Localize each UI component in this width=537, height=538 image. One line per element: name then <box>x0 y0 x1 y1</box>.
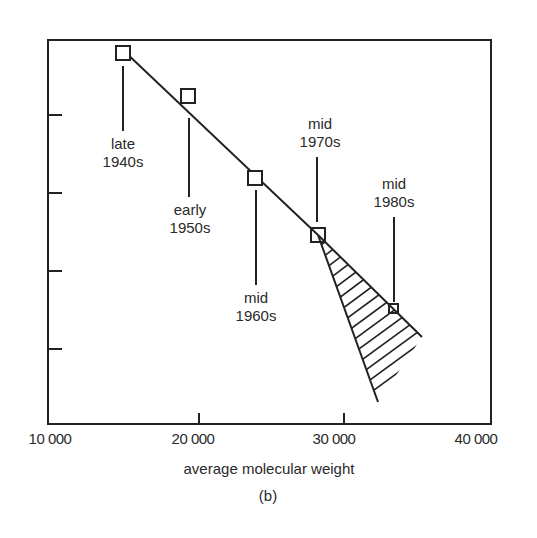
x-tick-label: 30 000 <box>313 430 356 447</box>
label-mid-1960s: mid 1960s <box>236 289 277 325</box>
panel-label: (b) <box>259 487 277 504</box>
y-ticks <box>48 115 62 349</box>
trend-line <box>123 50 318 235</box>
marker-early-1950s <box>181 89 195 103</box>
label-line: 1980s <box>374 193 415 211</box>
marker-late-1940s <box>116 46 130 60</box>
label-line: mid <box>236 289 277 307</box>
label-late-1940s: late 1940s <box>103 135 144 171</box>
label-mid-1980s: mid 1980s <box>374 175 415 211</box>
label-line: 1950s <box>170 219 211 237</box>
x-tick-label: 10 000 <box>29 430 72 447</box>
label-line: mid <box>374 175 415 193</box>
label-line: 1940s <box>103 153 144 171</box>
x-ticks <box>199 413 344 424</box>
chart-plot <box>0 0 537 538</box>
label-line: 1970s <box>300 133 341 151</box>
x-tick-label: 40 000 <box>455 430 498 447</box>
label-line: late <box>103 135 144 153</box>
x-tick-label: 20 000 <box>172 430 215 447</box>
uncertainty-fan <box>300 230 440 444</box>
marker-mid-1960s <box>248 171 262 185</box>
label-early-1950s: early 1950s <box>170 201 211 237</box>
label-line: mid <box>300 115 341 133</box>
label-line: 1960s <box>236 307 277 325</box>
label-line: early <box>170 201 211 219</box>
plot-frame <box>48 40 491 424</box>
label-mid-1970s: mid 1970s <box>300 115 341 151</box>
x-axis-title: average molecular weight <box>184 460 355 477</box>
